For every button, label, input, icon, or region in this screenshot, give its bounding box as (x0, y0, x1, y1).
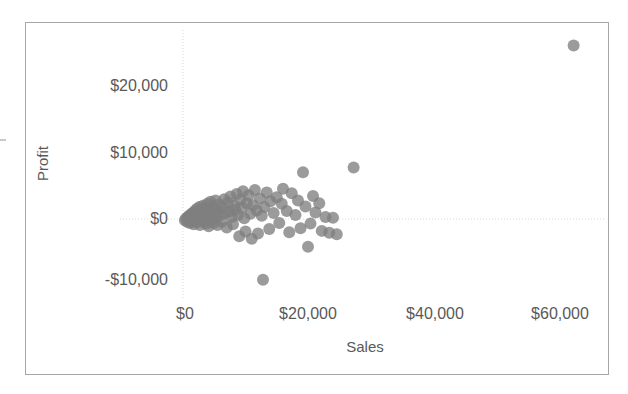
data-point (263, 223, 275, 235)
data-point (273, 217, 285, 229)
data-point (348, 162, 360, 174)
scatter-markers-group (179, 39, 580, 285)
data-point (257, 274, 269, 286)
gridlines-group (120, 30, 606, 300)
scatter-chart-root: Profit $20,000 $10,000 $0 -$10,000 $0 $2… (0, 0, 628, 394)
data-point (331, 228, 343, 240)
data-point (300, 200, 312, 212)
data-point (302, 241, 314, 253)
data-point (297, 166, 309, 178)
data-point (252, 228, 264, 240)
data-point (313, 197, 325, 209)
data-point (305, 218, 317, 230)
data-point (568, 39, 580, 51)
data-point (290, 209, 302, 221)
data-point (327, 212, 339, 224)
data-points-layer (0, 0, 628, 394)
data-point (283, 226, 295, 238)
